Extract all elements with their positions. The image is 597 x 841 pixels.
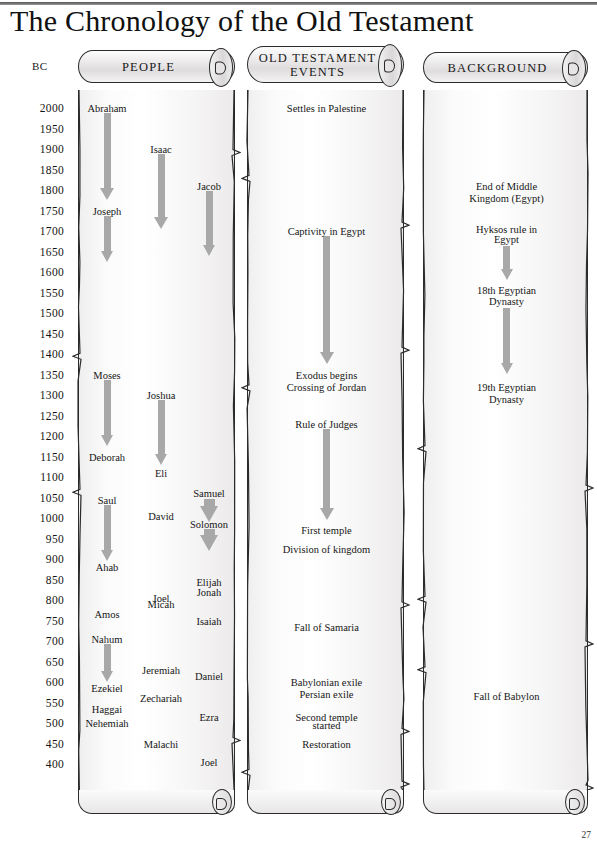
timeline-entry: Rule of Judges bbox=[295, 418, 357, 431]
scroll-header-title: BACKGROUND bbox=[424, 60, 571, 74]
timeline-entry: Dynasty bbox=[489, 393, 524, 406]
scroll-roll-inner-icon bbox=[215, 61, 226, 74]
timeline-entry: Egypt bbox=[494, 233, 519, 246]
timeline-entry: Kingdom (Egypt) bbox=[469, 192, 543, 205]
timeline-entry: Zechariah bbox=[140, 692, 182, 705]
timeline-entry: David bbox=[148, 510, 174, 523]
year-tick: 850 bbox=[20, 574, 64, 586]
year-tick: 1650 bbox=[20, 246, 64, 258]
scroll-torn-edge bbox=[417, 90, 431, 790]
timeline-entry: Ezra bbox=[199, 711, 218, 724]
year-tick: 900 bbox=[20, 553, 64, 565]
bc-axis-label: BC bbox=[32, 60, 47, 72]
scroll-torn-edge bbox=[241, 90, 255, 790]
scroll-body-events: Settles in PalestineCaptivity in EgyptEx… bbox=[247, 90, 404, 790]
timeline-entry: Samuel bbox=[193, 487, 225, 500]
scroll-column-background: BACKGROUNDEnd of MiddleKingdom (Egypt)Hy… bbox=[423, 0, 588, 841]
timeline-entry: Joshua bbox=[147, 389, 176, 402]
timeline-entry: Captivity in Egypt bbox=[288, 225, 366, 238]
timeline-entry: Joseph bbox=[93, 205, 122, 218]
timeline-entry: Nahum bbox=[92, 633, 123, 646]
timeline-entry: Dynasty bbox=[489, 295, 524, 308]
timeline-entry: Babylonian exile bbox=[291, 676, 362, 689]
timeline-entry: Abraham bbox=[87, 102, 126, 115]
timeline-entry: Division of kingdom bbox=[283, 543, 371, 556]
timeline-entry: Daniel bbox=[195, 670, 223, 683]
timeline-entry: First temple bbox=[301, 524, 351, 537]
timeline-entry: Haggai bbox=[92, 703, 122, 716]
year-tick: 1750 bbox=[20, 205, 64, 217]
timeline-entry: Jonah bbox=[197, 586, 222, 599]
scroll-roll-icon bbox=[209, 48, 233, 87]
timeline-arrow bbox=[104, 380, 111, 436]
scroll-roll-icon bbox=[378, 44, 402, 87]
year-tick: 1700 bbox=[20, 225, 64, 237]
scroll-column-events: OLD TESTAMENTEVENTSSettles in PalestineC… bbox=[247, 0, 404, 841]
timeline-entry: Jeremiah bbox=[142, 664, 180, 677]
timeline-entry: Malachi bbox=[144, 738, 178, 751]
year-tick: 650 bbox=[20, 656, 64, 668]
timeline-entry: Restoration bbox=[302, 738, 350, 751]
scroll-header-background: BACKGROUND bbox=[423, 52, 588, 83]
scroll-header-events: OLD TESTAMENTEVENTS bbox=[247, 46, 404, 83]
scroll-body-people: AbrahamIsaacJacobJosephMosesJoshuaDebora… bbox=[78, 90, 235, 790]
timeline-arrow bbox=[323, 236, 330, 353]
scroll-header-title: PEOPLE bbox=[79, 59, 218, 73]
timeline-entry: 19th Egyptian bbox=[477, 381, 536, 394]
year-tick: 450 bbox=[20, 738, 64, 750]
timeline-entry: Eli bbox=[155, 467, 167, 480]
year-tick: 750 bbox=[20, 615, 64, 627]
timeline-entry: Isaiah bbox=[196, 615, 221, 628]
year-tick: 1400 bbox=[20, 348, 64, 360]
timeline-entry: Fall of Samaria bbox=[294, 621, 359, 634]
year-tick: 1200 bbox=[20, 430, 64, 442]
timeline-entry: Micah bbox=[148, 598, 175, 611]
year-tick: 1900 bbox=[20, 143, 64, 155]
year-tick: 1600 bbox=[20, 266, 64, 278]
timeline-entry: Nehemiah bbox=[85, 717, 128, 730]
timeline-entry: Settles in Palestine bbox=[287, 102, 366, 115]
timeline-entry: started bbox=[313, 719, 341, 732]
timeline-arrow bbox=[104, 644, 111, 671]
scroll-column-people: PEOPLEAbrahamIsaacJacobJosephMosesJoshua… bbox=[78, 0, 235, 841]
year-tick: 800 bbox=[20, 594, 64, 606]
year-tick: 1800 bbox=[20, 184, 64, 196]
timeline-entry: Solomon bbox=[190, 518, 228, 531]
scroll-bottom-curl-icon bbox=[212, 789, 232, 815]
timeline-entry: Joel bbox=[201, 756, 218, 769]
year-tick: 1150 bbox=[20, 451, 64, 463]
year-tick: 950 bbox=[20, 533, 64, 545]
year-tick: 1500 bbox=[20, 307, 64, 319]
scroll-torn-edge bbox=[580, 90, 594, 790]
year-tick: 1350 bbox=[20, 369, 64, 381]
year-tick: 550 bbox=[20, 697, 64, 709]
scroll-roll-inner-icon bbox=[568, 62, 579, 75]
scroll-footer-events bbox=[247, 790, 404, 814]
scroll-footer-people bbox=[78, 790, 235, 814]
year-tick: 1950 bbox=[20, 123, 64, 135]
page-number: 27 bbox=[582, 830, 592, 840]
timeline-entry: Saul bbox=[98, 494, 117, 507]
timeline-arrow bbox=[158, 154, 165, 218]
timeline-entry: Persian exile bbox=[300, 688, 354, 701]
timeline-arrow bbox=[503, 246, 510, 269]
scroll-bottom-curl-icon bbox=[381, 789, 401, 815]
year-tick: 1100 bbox=[20, 471, 64, 483]
timeline-arrow bbox=[158, 400, 165, 454]
timeline-entry: Isaac bbox=[150, 143, 172, 156]
timeline-arrow bbox=[503, 308, 510, 364]
timeline-entry: End of Middle bbox=[476, 180, 537, 193]
year-tick: 1050 bbox=[20, 492, 64, 504]
scroll-header-title: OLD TESTAMENTEVENTS bbox=[248, 50, 387, 79]
year-tick: 1550 bbox=[20, 287, 64, 299]
scroll-header-people: PEOPLE bbox=[78, 50, 235, 83]
chronology-page: The Chronology of the Old Testament BC 2… bbox=[0, 0, 597, 841]
timeline-entry: Exodus begins bbox=[296, 369, 358, 382]
year-tick: 700 bbox=[20, 635, 64, 647]
scroll-torn-edge bbox=[227, 90, 241, 790]
timeline-arrow bbox=[104, 216, 111, 251]
timeline-entry: Ezekiel bbox=[91, 682, 122, 695]
year-tick: 2000 bbox=[20, 102, 64, 114]
timeline-entry: Jacob bbox=[197, 180, 221, 193]
timeline-entry: Fall of Babylon bbox=[474, 690, 540, 703]
